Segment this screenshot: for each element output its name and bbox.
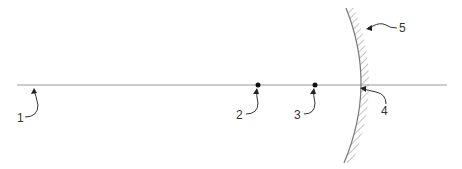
leader-2 — [246, 88, 259, 114]
label-2: 2 — [236, 108, 243, 122]
label-5: 5 — [399, 21, 406, 35]
label-3: 3 — [294, 108, 301, 122]
point-3 — [313, 83, 318, 88]
point-2 — [256, 83, 261, 88]
label-4: 4 — [381, 104, 388, 118]
leader-3 — [304, 88, 316, 114]
diagram-canvas: 1 2 3 4 5 — [0, 0, 462, 169]
leader-5 — [366, 24, 397, 31]
leader-1 — [25, 88, 38, 117]
label-1: 1 — [17, 111, 24, 125]
